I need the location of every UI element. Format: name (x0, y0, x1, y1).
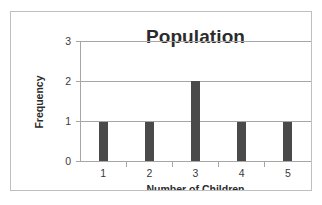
bar-slot-3 (172, 41, 218, 162)
plot-area (80, 41, 311, 162)
y-tick-label-2: 2 (49, 76, 71, 87)
y-axis-line (80, 41, 81, 162)
y-tick-label-1: 1 (49, 116, 71, 127)
bar-5[interactable] (283, 122, 292, 162)
x-tick-label-4: 4 (219, 168, 265, 179)
bar-slot-5 (265, 41, 311, 162)
x-axis-tick-labels: 1 2 3 4 5 (80, 168, 311, 179)
x-axis-title: Number of Children (80, 183, 311, 191)
bar-slot-4 (219, 41, 265, 162)
bar-1[interactable] (99, 122, 108, 162)
x-tick-mark-2 (172, 162, 173, 167)
bar-3[interactable] (191, 81, 200, 162)
chart-figure: Population Frequency 3 2 1 0 (10, 11, 312, 191)
y-tick-label-3: 3 (49, 36, 71, 47)
x-tick-mark-3 (218, 162, 219, 167)
y-axis-tick-labels: 3 2 1 0 (47, 41, 71, 171)
bar-slot-1 (80, 41, 126, 162)
x-tick-label-5: 5 (265, 168, 311, 179)
x-tick-mark-4 (264, 162, 265, 167)
y-axis-title: Frequency (33, 52, 45, 152)
y-tick-label-0: 0 (49, 156, 71, 167)
bar-2[interactable] (145, 122, 154, 162)
bar-slot-2 (126, 41, 172, 162)
x-tick-label-2: 2 (126, 168, 172, 179)
bar-series (80, 41, 311, 162)
bar-4[interactable] (237, 122, 246, 162)
x-tick-label-3: 3 (172, 168, 218, 179)
x-tick-label-1: 1 (80, 168, 126, 179)
x-tick-mark-1 (126, 162, 127, 167)
